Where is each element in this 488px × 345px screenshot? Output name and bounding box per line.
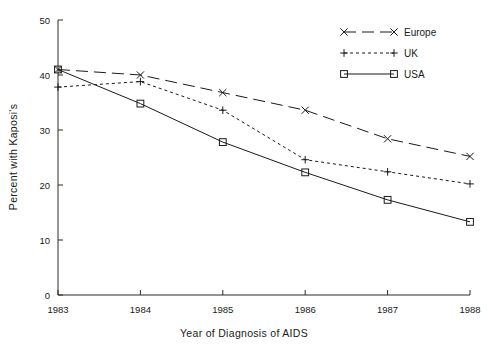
series-usa xyxy=(55,66,474,225)
data-point-marker-plus xyxy=(219,106,227,114)
y-axis-title: Percent with Kaposi's xyxy=(7,104,19,210)
legend-label: UK xyxy=(404,48,418,59)
y-tick-label: 0 xyxy=(45,290,50,301)
legend-item-europe[interactable]: Europe xyxy=(340,27,436,38)
y-tick-label: 10 xyxy=(39,235,50,246)
data-point-marker-plus xyxy=(54,83,62,91)
series-layer xyxy=(54,66,474,225)
legend-label: USA xyxy=(404,69,425,80)
data-point-marker-plus xyxy=(301,156,309,164)
x-tick-label: 1984 xyxy=(130,304,151,315)
legend-item-uk[interactable]: UK xyxy=(340,48,418,59)
x-tick-label: 1985 xyxy=(212,304,233,315)
data-point-marker-plus xyxy=(466,180,474,188)
y-tick-label: 40 xyxy=(39,70,50,81)
data-point-marker-x xyxy=(219,89,226,96)
y-axis-ticks: 01020304050 xyxy=(39,15,63,301)
data-point-marker-plus xyxy=(390,49,398,57)
chart-legend: EuropeUKUSA xyxy=(340,27,436,80)
x-tick-label: 1986 xyxy=(295,304,316,315)
series-line xyxy=(58,70,470,222)
data-point-marker-x xyxy=(466,153,473,160)
x-tick-label: 1983 xyxy=(47,304,68,315)
x-axis-ticks: 198319841985198619871988 xyxy=(47,290,480,315)
legend-item-usa[interactable]: USA xyxy=(341,69,425,80)
kaposi-sarcoma-line-chart: 01020304050 198319841985198619871988 Yea… xyxy=(0,0,488,345)
data-point-marker-x xyxy=(384,135,391,142)
series-line xyxy=(58,82,470,184)
x-tick-label: 1988 xyxy=(459,304,480,315)
data-point-marker-plus xyxy=(340,49,348,57)
data-point-marker-plus xyxy=(384,168,392,176)
chart-container: 01020304050 198319841985198619871988 Yea… xyxy=(0,0,488,345)
y-tick-label: 50 xyxy=(39,15,50,26)
y-tick-label: 30 xyxy=(39,125,50,136)
y-tick-label: 20 xyxy=(39,180,50,191)
series-europe xyxy=(54,66,473,160)
data-point-marker-plus xyxy=(137,78,145,86)
legend-label: Europe xyxy=(404,27,437,38)
x-tick-label: 1987 xyxy=(377,304,398,315)
data-point-marker-x xyxy=(302,107,309,114)
x-axis-title: Year of Diagnosis of AIDS xyxy=(180,327,308,339)
